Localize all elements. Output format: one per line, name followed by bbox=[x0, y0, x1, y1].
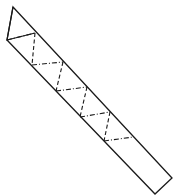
dashed-crease-line bbox=[32, 33, 35, 65]
dashed-crease-line bbox=[56, 62, 63, 91]
strip-outline bbox=[7, 7, 172, 194]
dash-dot-crease-line bbox=[104, 137, 133, 141]
strip-outline-polygon bbox=[7, 7, 172, 194]
folded-strip-diagram bbox=[0, 0, 175, 195]
dash-dot-crease-line bbox=[80, 112, 110, 117]
dashed-crease-line bbox=[104, 112, 110, 141]
diagram-svg bbox=[0, 0, 175, 195]
dashed-creases bbox=[32, 33, 110, 141]
dash-dot-crease-line bbox=[56, 87, 87, 91]
dashed-crease-line bbox=[80, 87, 87, 117]
dash-dot-crease-line bbox=[7, 33, 35, 40]
dash-dot-creases bbox=[7, 33, 133, 141]
dash-dot-crease-line bbox=[32, 62, 63, 65]
apex-fold-line bbox=[7, 7, 35, 40]
